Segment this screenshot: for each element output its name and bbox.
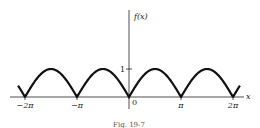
y-axis-label: f(x) xyxy=(133,12,148,21)
x-tick-label-0: 0 xyxy=(132,98,137,107)
x-tick-label-neg-2pi: −2π xyxy=(16,101,34,110)
x-axis-label: x xyxy=(246,92,251,101)
x-tick-label-pi: π xyxy=(177,101,184,110)
figure-caption: Fig. 19-7 xyxy=(113,121,145,128)
x-tick-label-2pi: 2π xyxy=(227,101,239,110)
function-plot: f(x) x 1 0 −2π −π π 2π Fig. 19-7 xyxy=(0,0,260,128)
y-tick-label-1: 1 xyxy=(120,65,125,74)
x-tick-label-neg-pi: −π xyxy=(71,101,84,110)
